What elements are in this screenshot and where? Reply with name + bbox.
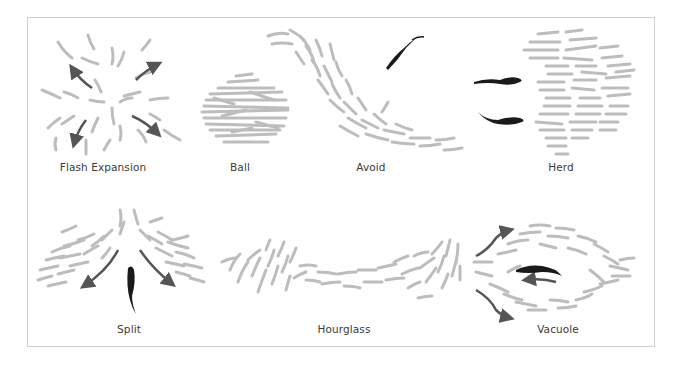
vacuole-illustration [0,0,682,368]
predator-fish-icon [516,266,562,277]
label-vacuole: Vacuole [537,323,579,335]
panel-vacuole: Vacuole [0,0,682,368]
